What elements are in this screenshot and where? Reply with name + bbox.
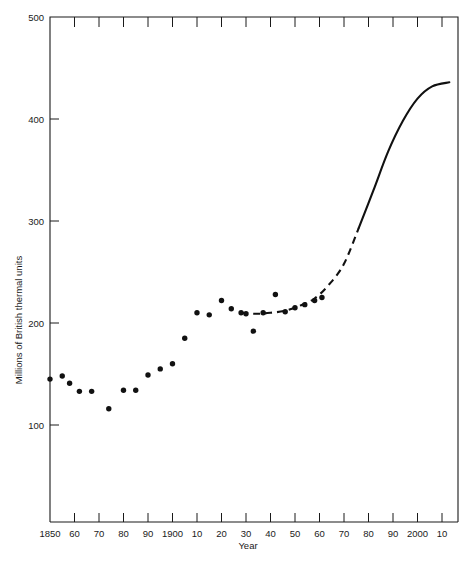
data-point <box>194 310 199 315</box>
data-point <box>260 310 265 315</box>
y-tick-label: 500 <box>28 12 44 23</box>
x-tick-label: 50 <box>290 528 301 539</box>
x-tick-label: 1900 <box>162 528 183 539</box>
y-tick-label: 400 <box>28 114 44 125</box>
data-point <box>77 389 82 394</box>
data-point <box>121 388 126 393</box>
y-axis-tick-labels: 500400300200100 <box>28 12 44 431</box>
y-tick-label: 100 <box>28 420 44 431</box>
x-tick-label: 80 <box>363 528 374 539</box>
data-point <box>170 361 175 366</box>
plot-frame <box>50 17 458 522</box>
chart-canvas: 500400300200100 185060708090190010203040… <box>0 0 469 563</box>
data-point <box>106 406 111 411</box>
y-tick-label: 300 <box>28 216 44 227</box>
data-points <box>47 292 324 412</box>
x-tick-label: 60 <box>314 528 325 539</box>
data-point <box>207 312 212 317</box>
data-point <box>243 311 248 316</box>
x-tick-label: 10 <box>192 528 203 539</box>
data-point <box>89 389 94 394</box>
trend-line-dashed <box>241 228 359 314</box>
data-point <box>312 298 317 303</box>
y-axis-title: Millions of British thermal units <box>13 256 24 385</box>
energy-per-capita-chart: 500400300200100 185060708090190010203040… <box>0 0 469 563</box>
x-tick-label: 60 <box>69 528 80 539</box>
x-axis-title: Year <box>238 540 257 551</box>
data-point <box>229 306 234 311</box>
x-tick-label: 1850 <box>39 528 60 539</box>
x-tick-label: 10 <box>437 528 448 539</box>
x-tick-label: 2000 <box>407 528 428 539</box>
trend-line-solid <box>359 82 450 228</box>
data-point <box>283 309 288 314</box>
data-point <box>182 336 187 341</box>
data-point <box>47 376 52 381</box>
data-point <box>319 295 324 300</box>
data-point <box>158 366 163 371</box>
x-axis-ticks <box>75 17 443 522</box>
x-tick-label: 70 <box>339 528 350 539</box>
data-point <box>67 380 72 385</box>
data-point <box>251 328 256 333</box>
x-tick-label: 70 <box>94 528 105 539</box>
x-tick-label: 20 <box>216 528 227 539</box>
data-point <box>60 373 65 378</box>
data-point <box>145 372 150 377</box>
y-tick-label: 200 <box>28 318 44 329</box>
data-point <box>273 292 278 297</box>
data-point <box>292 305 297 310</box>
trend-line <box>241 82 449 314</box>
data-point <box>238 310 243 315</box>
data-point <box>133 388 138 393</box>
x-tick-label: 80 <box>118 528 129 539</box>
x-tick-label: 90 <box>143 528 154 539</box>
x-axis-tick-labels: 1850607080901900102030405060708090200010 <box>39 528 447 539</box>
x-tick-label: 30 <box>241 528 252 539</box>
data-point <box>302 302 307 307</box>
data-point <box>219 298 224 303</box>
x-tick-label: 90 <box>388 528 399 539</box>
x-tick-label: 40 <box>265 528 276 539</box>
